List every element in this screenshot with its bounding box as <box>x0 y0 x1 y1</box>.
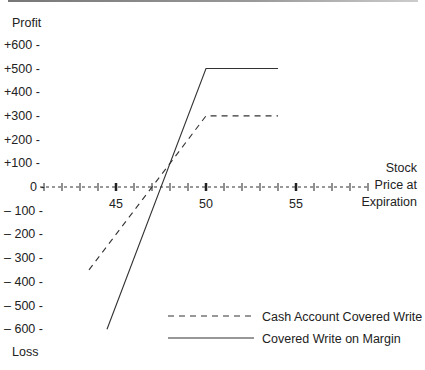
y-tick-label: – 600 - <box>4 322 43 336</box>
y-tick-label: +600 - <box>4 38 40 52</box>
x-axis-label-line: Expiration <box>361 195 417 209</box>
cash-account-line <box>89 116 278 270</box>
x-axis-label-line: Price at <box>375 178 418 192</box>
x-tick-label: 45 <box>109 197 123 211</box>
y-tick-label: – 100 - <box>4 204 43 218</box>
payoff-chart: Profit Loss +600 -+500 -+400 -+300 -+200… <box>0 0 425 370</box>
y-tick-label: – 400 - <box>4 275 43 289</box>
x-axis-label: StockPrice atExpiration <box>361 161 417 209</box>
x-tick-label: 50 <box>199 197 213 211</box>
y-tick-label: +100 - <box>4 156 40 170</box>
y-tick-label: – 500 - <box>4 299 43 313</box>
x-axis: 455055 <box>40 183 368 211</box>
margin-line <box>107 69 278 330</box>
y-axis-label-loss: Loss <box>12 345 38 359</box>
y-tick-label: +500 - <box>4 62 40 76</box>
y-axis-ticks: +600 -+500 -+400 -+300 -+200 -+100 -0 -–… <box>4 38 45 336</box>
y-axis-label-profit: Profit <box>12 16 42 30</box>
y-tick-label: +200 - <box>4 133 40 147</box>
y-tick-label: +400 - <box>4 85 40 99</box>
legend: Cash Account Covered WriteCovered Write … <box>168 310 422 346</box>
y-tick-label: +300 - <box>4 109 40 123</box>
y-tick-label: – 200 - <box>4 227 43 241</box>
x-tick-label: 55 <box>289 197 303 211</box>
legend-label: Covered Write on Margin <box>262 332 401 346</box>
x-axis-label-line: Stock <box>386 161 418 175</box>
y-tick-label: – 300 - <box>4 251 43 265</box>
legend-label: Cash Account Covered Write <box>262 310 422 324</box>
